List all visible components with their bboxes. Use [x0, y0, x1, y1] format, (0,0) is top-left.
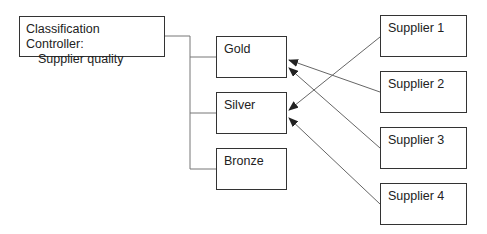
class-box-gold[interactable]: Gold — [216, 36, 287, 78]
class-label: Gold — [224, 42, 250, 56]
controller-bus-line — [165, 36, 190, 169]
supplier-box-1[interactable]: Supplier 1 — [380, 15, 467, 57]
class-box-bronze[interactable]: Bronze — [216, 148, 287, 190]
supplier-box-3[interactable]: Supplier 3 — [380, 127, 467, 169]
class-box-silver[interactable]: Silver — [216, 92, 287, 134]
supplier-label: Supplier 1 — [388, 21, 444, 35]
supplier-label: Supplier 4 — [388, 189, 444, 203]
supplier-label: Supplier 3 — [388, 133, 444, 147]
controller-title: Classification Controller: — [26, 22, 100, 51]
arrow-supplier1-to-silver — [289, 37, 380, 110]
supplier-box-4[interactable]: Supplier 4 — [380, 183, 467, 225]
arrow-supplier2-to-gold — [289, 60, 380, 92]
class-label: Bronze — [224, 154, 264, 168]
supplier-label: Supplier 2 — [388, 77, 444, 91]
arrow-supplier4-to-silver — [289, 118, 380, 204]
classification-controller-box[interactable]: Classification Controller: Supplier qual… — [19, 16, 165, 57]
class-label: Silver — [224, 98, 255, 112]
supplier-box-2[interactable]: Supplier 2 — [380, 71, 467, 113]
controller-subtitle: Supplier quality — [26, 52, 158, 67]
arrow-supplier3-to-gold — [289, 68, 380, 148]
